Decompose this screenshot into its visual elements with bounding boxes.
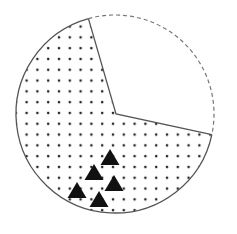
cropped-caption [6, 228, 231, 234]
circle-diagram [0, 0, 237, 234]
